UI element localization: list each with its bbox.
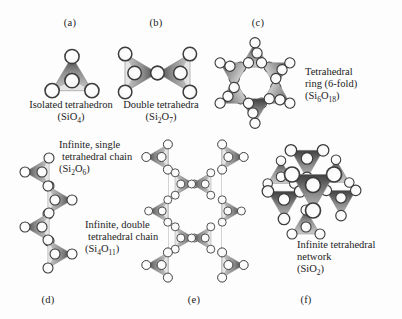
- caption-e-formula: (Si4O11): [85, 243, 158, 255]
- structure-network: [262, 145, 361, 239]
- caption-d-name-line2: tetrahedral chain: [59, 151, 132, 163]
- oxygen-atom: [218, 140, 227, 149]
- oxygen-atom: [163, 248, 172, 257]
- oxygen-atom: [201, 234, 209, 242]
- oxygen-atom: [183, 85, 197, 99]
- sio4-tetrahedron: [43, 235, 77, 273]
- oxygen-atom: [43, 235, 53, 245]
- oxygen-atom: [183, 47, 197, 61]
- oxygen-atom: [174, 66, 188, 80]
- oxygen-atom: [301, 153, 313, 165]
- oxygen-atom: [163, 273, 172, 282]
- oxygen-atom: [285, 145, 297, 157]
- sio4-tetrahedron: [321, 185, 361, 221]
- structure-isolated-tetrahedron: [45, 49, 99, 97]
- oxygen-atom: [285, 167, 300, 182]
- sio4-tetrahedron: [188, 223, 215, 253]
- sio4-tetrahedron: [218, 140, 249, 174]
- caption-f-name-line2: network: [297, 251, 375, 263]
- oxygen-atom: [278, 194, 290, 206]
- structure-double-chain: [142, 140, 248, 282]
- panel-label-c: (c): [241, 17, 275, 28]
- oxygen-atom: [239, 153, 248, 162]
- oxygen-atom: [218, 218, 226, 226]
- oxygen-atom: [164, 196, 172, 204]
- oxygen-atom: [207, 223, 215, 231]
- oxygen-atom: [44, 153, 54, 163]
- sio4-tetrahedron: [218, 196, 245, 226]
- oxygen-atom: [67, 249, 77, 259]
- oxygen-atom: [50, 195, 60, 205]
- sio4-tetrahedron: [255, 72, 304, 123]
- sio4-tetrahedron: [262, 186, 306, 225]
- sio4-tetrahedron: [206, 44, 255, 95]
- oxygen-atom: [207, 245, 215, 253]
- oxygen-atom: [306, 203, 321, 218]
- oxygen-atom: [315, 229, 325, 239]
- oxygen-atom: [262, 186, 274, 198]
- caption-b-name: Double tetrahedra: [106, 99, 216, 111]
- oxygen-atom: [145, 207, 153, 215]
- caption-d: Infinite, single tetrahedral chain (Si2O…: [59, 139, 132, 175]
- oxygen-atom: [43, 181, 53, 191]
- caption-f-formula: (SiO2): [297, 263, 375, 275]
- sio4-tetrahedron: [45, 49, 99, 97]
- panel-label-e: (e): [177, 294, 211, 305]
- caption-c-name-line1: Tetrahedral: [305, 66, 357, 78]
- oxygen-atom: [188, 180, 196, 188]
- caption-f-name-line1: Infinite tetrahedral: [297, 239, 375, 251]
- oxygen-atom: [218, 273, 227, 282]
- caption-c-name-line2: ring (6-fold): [305, 78, 357, 90]
- oxygen-atom: [276, 156, 286, 166]
- oxygen-atom: [218, 248, 227, 257]
- oxygen-atom: [37, 167, 47, 177]
- oxygen-atom: [317, 145, 329, 157]
- oxygen-atom: [350, 185, 361, 196]
- caption-e: Infinite, double tetrahedral chain (Si4O…: [85, 219, 158, 255]
- panel-label-d: (d): [31, 294, 65, 305]
- oxygen-atom: [250, 38, 260, 48]
- oxygen-atom: [158, 207, 166, 215]
- oxygen-atom: [65, 74, 79, 88]
- oxygen-atom: [248, 108, 258, 118]
- oxygen-atom: [207, 169, 215, 177]
- oxygen-atom: [65, 49, 79, 63]
- oxygen-atom: [85, 84, 99, 98]
- structure-double-tetrahedra: [118, 47, 196, 98]
- oxygen-atom: [118, 47, 131, 61]
- oxygen-atom: [237, 207, 245, 215]
- oxygen-atom: [336, 210, 347, 221]
- oxygen-atom: [336, 193, 347, 204]
- oxygen-atom: [264, 94, 274, 104]
- oxygen-atom: [207, 191, 215, 199]
- panel-label-f: (f): [289, 294, 323, 305]
- caption-c: Tetrahedral ring (6-fold) (Si6O18): [305, 66, 357, 102]
- panel-label-a: (a): [53, 17, 87, 28]
- oxygen-atom: [177, 234, 185, 242]
- oxygen-atom: [301, 222, 311, 232]
- caption-d-formula: (Si2O6): [59, 163, 132, 175]
- oxygen-atom: [43, 263, 53, 273]
- oxygen-atom: [45, 84, 59, 98]
- oxygen-atom: [157, 153, 166, 162]
- oxygen-atom: [201, 180, 209, 188]
- oxygen-atom: [252, 48, 262, 58]
- oxygen-atom: [44, 208, 54, 218]
- oxygen-atom: [20, 167, 30, 177]
- caption-e-name-line1: Infinite, double: [85, 219, 158, 231]
- oxygen-atom: [224, 261, 233, 270]
- structure-tetrahedral-ring: [206, 38, 304, 129]
- oxygen-atom: [163, 140, 172, 149]
- oxygen-atom: [177, 180, 185, 188]
- sio4-tetrahedron: [188, 169, 215, 199]
- caption-d-name-line1: Infinite, single: [59, 139, 132, 151]
- oxygen-atom: [224, 153, 233, 162]
- oxygen-atom: [142, 261, 151, 270]
- silicate-tetrahedra-figure: (a) (b) (c) (d) (e) (f) Isolated tetrahe…: [0, 0, 402, 319]
- oxygen-atom: [142, 153, 151, 162]
- oxygen-atom: [20, 222, 30, 232]
- oxygen-atom: [239, 261, 248, 270]
- sio4-tetrahedron: [151, 47, 197, 98]
- caption-e-name-line2: tetrahedral chain: [85, 231, 158, 243]
- sio4-tetrahedron: [218, 248, 249, 282]
